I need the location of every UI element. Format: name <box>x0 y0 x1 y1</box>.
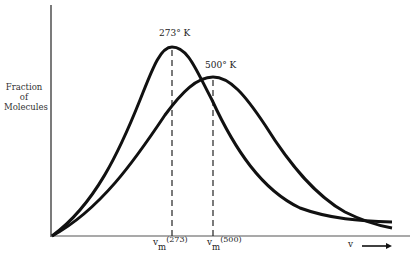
vm-500-sup: (500) <box>220 235 242 244</box>
label-500k: 500° K <box>205 60 236 70</box>
y-label-line-3: Molecules <box>4 102 44 112</box>
curve-500k <box>52 77 392 236</box>
label-273k: 273° K <box>159 28 190 38</box>
distribution-chart <box>0 0 415 257</box>
y-label-line-1: Fraction <box>4 82 44 92</box>
vm-273-sup: (273) <box>166 235 188 244</box>
vm-500-label: vm(500) <box>207 237 242 247</box>
vm-273-label: vm(273) <box>153 237 188 247</box>
vm-273-sub: m <box>158 242 166 252</box>
vm-500-sub: m <box>212 242 220 252</box>
x-axis-label: v <box>348 239 353 249</box>
arrow-right-icon <box>386 243 392 249</box>
y-axis-label: Fraction of Molecules <box>4 82 44 112</box>
y-label-line-2: of <box>4 92 44 102</box>
curve-273k <box>52 47 392 236</box>
